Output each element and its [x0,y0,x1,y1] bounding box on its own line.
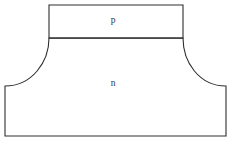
p-region-outline [49,5,183,38]
p-region-label: p [111,15,116,25]
diagram-canvas: p n [0,0,234,148]
n-region-label: n [111,78,116,88]
n-region-outline [5,38,226,136]
pn-structure-diagram: p n [0,0,234,148]
